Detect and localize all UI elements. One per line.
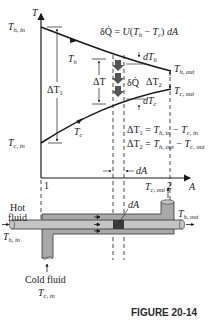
x-tick-1: 1: [44, 180, 49, 191]
cold-fluid-label: Cold fluid: [25, 274, 66, 285]
dt-c-dimension: dTc: [126, 95, 157, 110]
cold-direction-arrow-icon: [76, 118, 83, 124]
x-axis-label: A: [188, 181, 196, 192]
label-cold-outlet: Tc, out: [145, 181, 165, 193]
label-t-h: Th: [68, 53, 77, 65]
shell: [42, 202, 174, 258]
hot-fluid-label-line2: fluid: [8, 212, 27, 223]
label-hot-inlet: Th, in: [3, 231, 20, 243]
delta-t1-dimension: ΔT1: [47, 27, 63, 143]
label-dt-h: dTh: [143, 51, 157, 63]
label-t-c: Tc: [74, 126, 83, 138]
heat-exchanger-diagram: T A 1 2 Th, in Tc, in Th, out Tc, out Th…: [0, 0, 214, 325]
label-delta-q: δQ̇: [127, 77, 140, 88]
delta-t2-dimension: ΔT2: [146, 72, 170, 88]
label-delta-t2: ΔT2: [146, 76, 162, 88]
label-t-h-in: Th, in: [8, 21, 25, 33]
label-da-axis: dA: [136, 165, 148, 176]
label-t-c-in: Tc, in: [8, 137, 25, 149]
label-delta-t1: ΔT1: [47, 84, 63, 96]
label-dt-c: dTc: [143, 95, 157, 107]
element-da: [113, 220, 124, 229]
delta-t-dimension: ΔT: [92, 59, 106, 104]
y-axis-label: T: [32, 7, 39, 18]
label-hot-outlet: Th, out: [178, 208, 199, 220]
label-t-h-out: Th, out: [174, 63, 195, 75]
delta-t1-definition: ΔT1 = Th, in − Tc, in: [127, 124, 198, 136]
heat-exchanger: dA: [2, 188, 194, 272]
label-t-c-out: Tc, out: [174, 85, 194, 97]
label-delta-t: ΔT: [93, 76, 106, 87]
heat-transfer-arrows: [112, 60, 124, 97]
heat-rate-equation: δQ̇ = U(Th − Tc) dA: [100, 26, 179, 38]
delta-t2-definition: ΔT2 = Th, out − Tc, out: [127, 138, 205, 150]
label-cold-inlet: Tc, in: [38, 287, 55, 299]
figure-caption: FIGURE 20-14: [131, 307, 198, 318]
label-da-exchanger: dA: [128, 199, 140, 210]
